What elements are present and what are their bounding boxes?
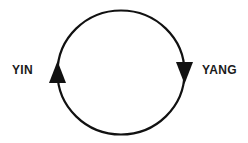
cycle-diagram: YIN YANG	[0, 0, 248, 143]
label-yin: YIN	[12, 64, 33, 76]
label-yang: YANG	[202, 64, 237, 76]
right-arrow-down-icon	[176, 62, 193, 84]
left-arrow-up-icon	[49, 61, 66, 83]
cycle-circle	[58, 11, 185, 135]
